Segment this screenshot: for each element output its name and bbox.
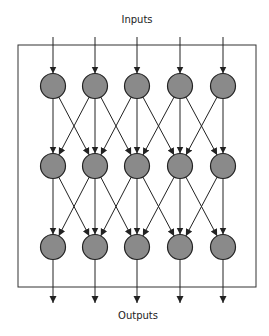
neuron-node [168,74,193,99]
neuron-node [168,154,193,179]
neuron-node [125,74,150,99]
neuron-node [83,74,108,99]
neuron-node [211,235,236,260]
neuron-node [41,154,66,179]
neuron-node [211,154,236,179]
outputs-label: Outputs [118,310,158,321]
neuron-node [211,74,236,99]
neuron-node [83,235,108,260]
neural-network-diagram: Inputs Outputs [0,0,269,336]
neuron-node [41,74,66,99]
inputs-label: Inputs [121,14,152,25]
neuron-node [83,154,108,179]
neuron-node [41,235,66,260]
nodes [41,74,236,260]
neuron-node [125,235,150,260]
neuron-node [168,235,193,260]
neuron-node [125,154,150,179]
